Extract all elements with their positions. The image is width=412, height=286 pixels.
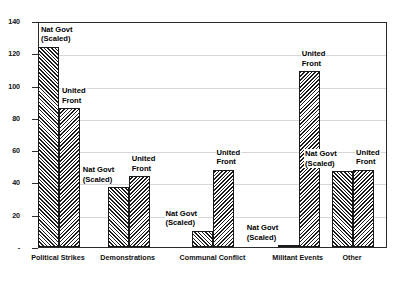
label-nat-govt-demonstrations: Nat Govt(Scaled) [82,165,116,184]
label-nat-govt-militant-events: Nat Govt(Scaled) [246,223,280,242]
y-tick-label-20: 20 [0,212,20,219]
label-united-front-political-strikes: UnitedFront [61,86,87,105]
y-tick-mark-0 [32,248,38,249]
bar-group-other [318,23,388,247]
x-tick-label-other: Other [302,254,402,261]
bar-united-front-other [353,170,374,248]
plot-area: Nat Govt(Scaled)UnitedFrontNat Govt(Scal… [38,22,387,248]
label-united-front-demonstrations: UnitedFront [131,154,157,173]
y-tick-label-120: 120 [0,50,20,57]
bar-nat-govt-communal-conflict [192,231,213,247]
bar-united-front-communal-conflict [213,170,234,248]
y-tick-label-80: 80 [0,115,20,122]
bar-nat-govt-demonstrations [108,187,129,247]
label-nat-govt-political-strikes: Nat Govt(Scaled) [40,25,74,44]
bar-chart-figure: -20406080100120140 Nat Govt(Scaled)Unite… [0,0,412,286]
bar-united-front-political-strikes [59,108,80,247]
y-tick-label-60: 60 [0,147,20,154]
label-nat-govt-other: Nat Govt(Scaled) [304,149,338,168]
bar-nat-govt-militant-events [278,245,299,247]
bar-group-political-strikes [39,23,109,247]
label-united-front-militant-events: UnitedFront [301,49,327,68]
y-tick-label-0: - [0,244,20,251]
bar-nat-govt-political-strikes [38,47,59,247]
label-united-front-communal-conflict: UnitedFront [216,148,242,167]
y-tick-label-140: 140 [0,18,20,25]
label-united-front-other: UnitedFront [355,148,381,167]
y-tick-label-100: 100 [0,83,20,90]
y-tick-label-40: 40 [0,179,20,186]
bar-united-front-demonstrations [129,176,150,247]
label-nat-govt-communal-conflict: Nat Govt(Scaled) [165,209,199,228]
bar-nat-govt-other [332,171,353,247]
